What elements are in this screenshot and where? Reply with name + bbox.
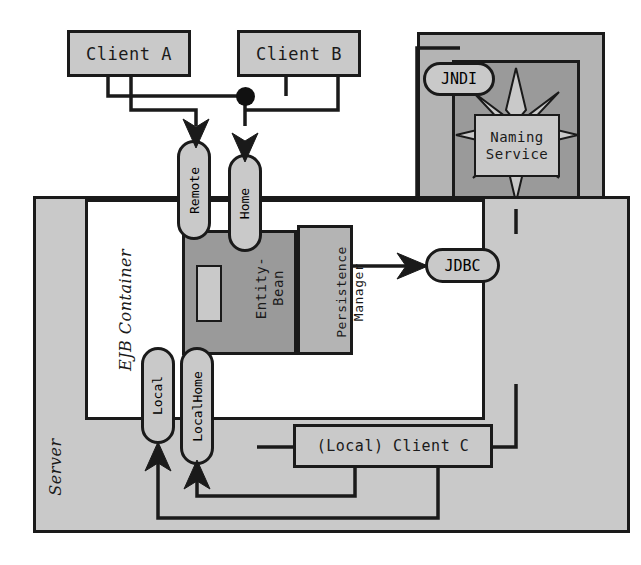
arrow-heads — [0, 0, 641, 565]
diagram-canvas: Naming Service DB Server EJB Container E… — [0, 0, 641, 565]
arrow-head-icon — [184, 460, 210, 489]
arrow-head-icon — [397, 253, 428, 279]
arrow-head-icon — [145, 442, 171, 471]
arrow-head-icon — [183, 119, 209, 148]
arrow-head-icon — [232, 133, 258, 162]
